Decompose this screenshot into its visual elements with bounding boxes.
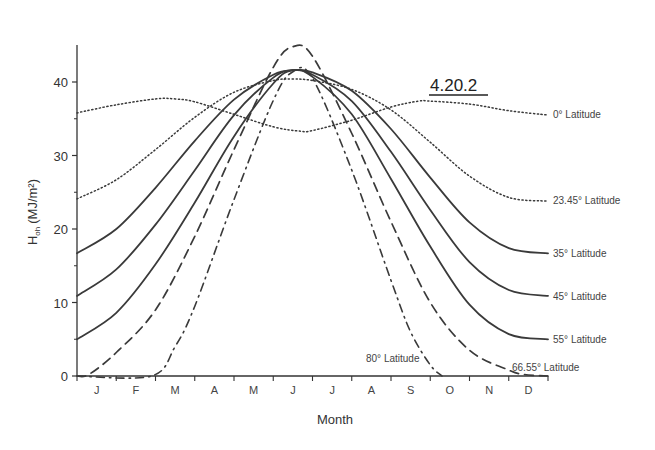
y-axis-title-main: H [25, 236, 40, 245]
svg-text:Hoh(MJ/m²): Hoh(MJ/m²) [25, 179, 42, 245]
x-tick-label: O [446, 384, 455, 396]
series-line-0 [77, 98, 548, 131]
y-axis-title-units: (MJ/m²) [25, 179, 40, 224]
x-tick-label: S [407, 384, 414, 396]
series-line-35 [77, 70, 548, 253]
x-tick-label: J [290, 384, 296, 396]
solar-radiation-chart: 010203040 JFMAMJJASOND 0° Latitude23.45°… [0, 0, 655, 450]
series-label: 35° Latitude [553, 248, 607, 259]
y-tick-label: 30 [54, 149, 68, 164]
x-tick-label: J [329, 384, 335, 396]
y-tick-label: 0 [61, 369, 68, 384]
figure-id: 4.20.2 [430, 76, 477, 95]
x-tick-label: A [368, 384, 376, 396]
x-ticks: JFMAMJJASOND [77, 376, 548, 396]
x-tick-label: N [485, 384, 493, 396]
x-tick-label: F [133, 384, 140, 396]
x-tick-label: D [524, 384, 532, 396]
y-tick-label: 40 [54, 75, 68, 90]
series-label: 55° Latitude [553, 334, 607, 345]
y-axis-title-sub: oh [33, 227, 42, 236]
y-ticks: 010203040 [54, 75, 77, 384]
x-tick-label: M [249, 384, 258, 396]
series-label: 45° Latitude [553, 291, 607, 302]
series-line-80 [77, 67, 442, 378]
series-line-55 [77, 70, 548, 340]
series-label: 0° Latitude [553, 109, 601, 120]
series-label: 23.45° Latitude [553, 195, 621, 206]
series-line-45 [77, 70, 548, 296]
series-label: 66.55° Latitude [512, 362, 580, 373]
x-tick-label: M [171, 384, 180, 396]
y-tick-label: 20 [54, 222, 68, 237]
series-line-2345 [77, 79, 548, 201]
y-axis-title: Hoh(MJ/m²) [25, 179, 42, 245]
x-tick-label: J [94, 384, 100, 396]
x-axis-title: Month [317, 412, 353, 427]
y-tick-label: 10 [54, 296, 68, 311]
axes: 010203040 JFMAMJJASOND [54, 45, 548, 396]
x-tick-label: A [211, 384, 219, 396]
series-label: 80° Latitude [366, 353, 420, 364]
